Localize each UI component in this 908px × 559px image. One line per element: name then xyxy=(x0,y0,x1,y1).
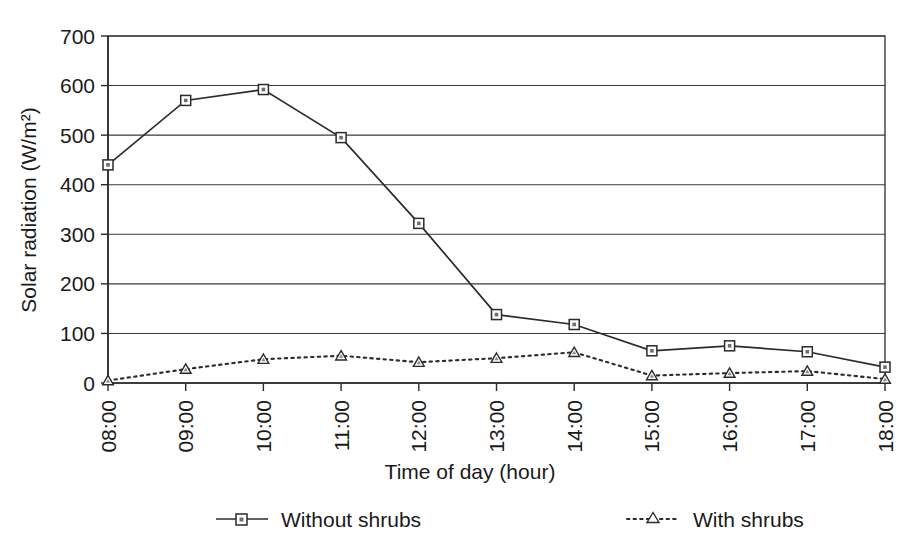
y-axis-tick-label: 100 xyxy=(60,322,95,345)
x-axis-tick-label: 18:00 xyxy=(874,400,897,453)
data-point-marker-square-core xyxy=(417,222,421,226)
y-axis-tick-labels: 0100200300400500600700 xyxy=(60,25,95,395)
x-axis-tick-label: 16:00 xyxy=(718,400,741,453)
chart-legend: Without shrubs With shrubs xyxy=(216,508,804,531)
y-axis-title: Solar radiation (W/m²) xyxy=(17,107,40,312)
data-point-marker-square-core xyxy=(339,136,343,140)
series-polylines xyxy=(108,90,885,381)
x-axis-tick-label: 13:00 xyxy=(485,400,508,453)
data-point-marker-square-core xyxy=(184,99,188,103)
gridline-group xyxy=(108,36,885,333)
series-line-without-shrubs xyxy=(108,90,885,368)
x-axis-tick-label: 09:00 xyxy=(174,400,197,453)
y-axis-tick-label: 700 xyxy=(60,25,95,48)
solar-radiation-line-chart: 0100200300400500600700 08:0009:0010:0011… xyxy=(0,0,908,559)
y-axis-tick-marks xyxy=(101,36,108,383)
y-axis-tick-label: 400 xyxy=(60,173,95,196)
x-axis-tick-label: 11:00 xyxy=(330,400,353,451)
x-axis-tick-label: 15:00 xyxy=(640,400,663,453)
legend-label-with-shrubs: With shrubs xyxy=(693,508,804,531)
x-axis-tick-label: 17:00 xyxy=(796,400,819,453)
legend-item-with-shrubs: With shrubs xyxy=(627,508,804,531)
x-axis-tick-label: 08:00 xyxy=(97,400,120,453)
x-axis-title: Time of day (hour) xyxy=(385,460,556,483)
plot-area-frame xyxy=(108,36,885,383)
legend-item-without-shrubs: Without shrubs xyxy=(216,508,421,531)
y-axis-tick-label: 300 xyxy=(60,223,95,246)
y-axis-tick-label: 500 xyxy=(60,124,95,147)
y-axis-tick-label: 200 xyxy=(60,272,95,295)
legend-label-without-shrubs: Without shrubs xyxy=(281,508,421,531)
data-point-marker-square-core xyxy=(262,88,266,92)
data-point-marker-square-core xyxy=(650,349,654,353)
data-point-marker-square-core xyxy=(106,163,110,167)
y-axis-tick-label: 0 xyxy=(83,372,95,395)
square-marker-icon-core xyxy=(240,518,244,522)
chart-canvas: 0100200300400500600700 08:0009:0010:0011… xyxy=(0,0,908,559)
x-axis-tick-marks xyxy=(108,383,885,391)
x-axis-tick-label: 12:00 xyxy=(407,400,430,453)
data-point-marker-square-core xyxy=(572,323,576,327)
y-axis-tick-label: 600 xyxy=(60,74,95,97)
data-point-marker-square-core xyxy=(495,313,499,317)
x-axis-tick-label: 10:00 xyxy=(252,400,275,453)
x-axis-tick-label: 14:00 xyxy=(563,400,586,453)
data-point-marker-square-core xyxy=(806,350,810,354)
triangle-marker-icon xyxy=(647,513,659,523)
data-point-marker-square-core xyxy=(883,365,887,369)
data-point-marker-square-core xyxy=(728,344,732,348)
x-axis-tick-labels: 08:0009:0010:0011:0012:0013:0014:0015:00… xyxy=(97,400,897,453)
